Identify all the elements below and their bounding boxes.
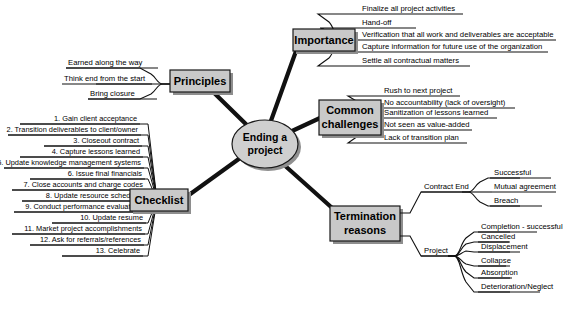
connector-contract-end-stem [400, 192, 462, 213]
branch-importance: Finalize all project activities Hand-off… [293, 4, 556, 66]
principles-item-2: Think end from the start [64, 74, 146, 83]
checklist-item-11: 11. Market project accomplishments [24, 224, 142, 233]
common-challenges-item-4: Not seen as value-added [384, 120, 469, 129]
spoke-importance [268, 40, 300, 129]
checklist-item-10: 10. Update resume [80, 213, 143, 222]
project-item-4: Collapse [481, 256, 511, 265]
checklist-item-6: 6. Issue final financials [68, 169, 143, 178]
center-node[interactable]: Ending a project [232, 120, 301, 171]
center-label-line1: Ending a [243, 131, 287, 143]
contract-end-item-2: Mutual agreement [494, 182, 557, 191]
mind-map-canvas: Ending a project Earned along the way Th… [0, 0, 567, 319]
branch-principles: Earned along the way Think end from the … [62, 58, 233, 99]
project-item-2: Cancelled [481, 232, 515, 241]
center-label-line2: project [247, 144, 283, 156]
importance-label: Importance [294, 34, 353, 46]
termination-label-line1: Termination [334, 210, 396, 222]
checklist-item-9: 9. Conduct performance evaluations [25, 202, 144, 211]
project-item-1: Completion - successful [481, 222, 563, 231]
contract-end-item-1: Successful [494, 168, 531, 177]
contract-end-item-3: Breach [494, 196, 518, 205]
principles-item-3: Bring closure [90, 89, 135, 98]
project-item-3: Displacement [481, 242, 528, 251]
checklist-item-12: 12. Ask for referrals/references [40, 235, 141, 244]
common-challenges-label-line1: Common [326, 104, 374, 116]
importance-item-3: Verification that all work and deliverab… [362, 30, 553, 39]
importance-item-4: Capture information for future use of th… [362, 42, 542, 51]
checklist-item-3: 3. Closeout contract [73, 136, 139, 145]
common-challenges-item-3: Sanitization of lessons learned [384, 108, 488, 117]
checklist-item-1: 1. Gain client acceptance [54, 114, 137, 123]
checklist-label: Checklist [135, 194, 184, 206]
importance-item-1: Finalize all project activities [362, 4, 455, 13]
importance-item-2: Hand-off [362, 18, 392, 27]
branch-checklist: 1. Gain client acceptance 2. Transition … [0, 114, 191, 256]
checklist-item-4: 4. Capture lessons learned [52, 147, 140, 156]
branch-common-challenges: Rush to next project No accountability (… [319, 86, 515, 143]
common-challenges-item-2: No accountability (lack of oversight) [384, 98, 506, 107]
checklist-item-7: 7. Close accounts and charge codes [23, 180, 143, 189]
common-challenges-label-line2: challenges [322, 118, 379, 130]
checklist-item-5: 5. Update knowledge management systems [0, 158, 141, 167]
termination-label-line2: reasons [344, 224, 386, 236]
branch-termination-reasons: Termination reasons Contract End Success… [330, 168, 563, 292]
common-challenges-item-1: Rush to next project [384, 86, 453, 95]
checklist-item-13: 13. Celebrate [96, 246, 140, 255]
subbranch-contract-end-label: Contract End [424, 182, 469, 191]
subbranch-project-label: Project [424, 246, 449, 255]
principles-item-1: Earned along the way [68, 58, 143, 67]
project-item-5: Absorption [481, 268, 518, 277]
common-challenges-item-5: Lack of transition plan [384, 133, 459, 142]
principles-label: Principles [174, 75, 227, 87]
checklist-item-2: 2. Transition deliverables to client/own… [7, 125, 139, 134]
project-item-6: Deterioration/Neglect [481, 282, 554, 291]
importance-item-5: Settle all contractual matters [362, 56, 459, 65]
